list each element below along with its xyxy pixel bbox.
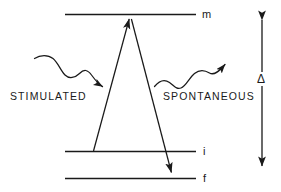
spontaneous-photon-wave-icon — [155, 65, 226, 89]
level-label-i: i — [203, 146, 205, 157]
process-label-stimulated: STIMULATED — [10, 91, 87, 102]
energy-level-diagram: m i f STIMULATED SPONTANEOUS Δ — [0, 0, 281, 192]
level-label-m: m — [202, 9, 211, 20]
transition-arrow-absorption — [94, 19, 130, 151]
energy-gap-label-delta: Δ — [256, 72, 266, 86]
process-label-spontaneous: SPONTANEOUS — [163, 91, 255, 102]
stimulated-photon-wave-icon — [35, 56, 103, 87]
level-label-f: f — [203, 173, 206, 184]
